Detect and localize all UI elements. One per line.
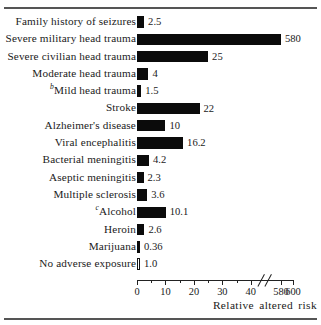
axis-tick [237, 280, 238, 283]
bar-value-label: 1.0 [144, 257, 157, 271]
axis-tick-label: 20 [189, 285, 199, 298]
category-label: No adverse exposure [39, 256, 136, 271]
bar-value-label: 580 [285, 32, 301, 46]
bar [137, 16, 144, 27]
bar [137, 207, 166, 218]
bar-row: Stroke22 [0, 100, 321, 117]
bar-value-label: 22 [204, 102, 215, 116]
bar-row: Alzheimer's disease10 [0, 118, 321, 135]
bar-value-label: 4.2 [153, 153, 166, 167]
bar [137, 224, 144, 235]
figure: Family history of seizures2.5Severe mili… [0, 0, 321, 325]
category-label: bMild head trauma [50, 83, 136, 98]
bar [137, 51, 208, 62]
category-label: Aseptic meningitis [49, 170, 136, 185]
category-label: Severe civilian head trauma [7, 49, 136, 64]
axis-tick [180, 280, 181, 283]
axis-break-icon [264, 274, 277, 287]
bar-value-label: 16.2 [187, 136, 206, 150]
bar-row: bMild head trauma1.5 [0, 83, 321, 100]
footnote-marker: c [95, 204, 99, 213]
bar [137, 68, 148, 79]
axis-tick-label: 40 [246, 285, 256, 298]
axis-tick [151, 280, 152, 283]
bar-row: cAlcohol10.1 [0, 204, 321, 221]
category-label: Family history of seizures [16, 14, 136, 29]
bar-value-label: 10.1 [170, 205, 189, 219]
bar-rows: Family history of seizures2.5Severe mili… [0, 14, 321, 273]
bar-row: Aseptic meningitis2.3 [0, 170, 321, 187]
bar-value-label: 25 [212, 50, 223, 64]
bar [137, 85, 141, 96]
category-label: Alzheimer's disease [44, 118, 136, 133]
category-label: Viral encephalitis [55, 135, 136, 150]
category-label: Marijuana [89, 239, 136, 254]
bar [137, 120, 165, 131]
category-label: Severe military head trauma [6, 31, 136, 46]
bar-value-label: 2.3 [148, 171, 161, 185]
bar-row: No adverse exposure1.0 [0, 256, 321, 273]
bar-value-label: 2.5 [148, 15, 161, 29]
bar [137, 241, 140, 252]
axis-tick [208, 280, 209, 283]
bar [137, 137, 183, 148]
category-label: Stroke [106, 100, 136, 115]
axis-tick-label: 0 [134, 285, 139, 298]
x-axis-title: Relative altered risk [0, 299, 317, 311]
category-label: Bacterial meningitis [43, 152, 136, 167]
bar-value-label: 10 [169, 119, 180, 133]
footnote-marker: b [50, 82, 54, 91]
bar-value-label: 1.5 [145, 84, 158, 98]
top-rule [4, 7, 317, 9]
bar-value-label: 3.6 [151, 188, 164, 202]
bar-row: Marijuana0.36 [0, 239, 321, 256]
category-label: Heroin [104, 222, 136, 237]
bar-row: Multiple sclerosis3.6 [0, 187, 321, 204]
bar [137, 189, 147, 200]
bar-row: Heroin2.6 [0, 222, 321, 239]
bar [137, 155, 149, 166]
bar-row: Viral encephalitis16.2 [0, 135, 321, 152]
bottom-rule [4, 318, 317, 320]
bar-row: Family history of seizures2.5 [0, 14, 321, 31]
bar-value-label: 0.36 [144, 240, 163, 254]
bar-row: Bacterial meningitis4.2 [0, 152, 321, 169]
axis-tick-label: 30 [217, 285, 227, 298]
category-label: cAlcohol [95, 204, 136, 219]
bar-row: Severe military head trauma580 [0, 31, 321, 48]
bar-value-label: 2.6 [148, 223, 161, 237]
bar [137, 34, 281, 45]
bar [137, 172, 144, 183]
bar-value-label: 4 [152, 67, 157, 81]
category-label: Multiple sclerosis [53, 187, 136, 202]
category-label: Moderate head trauma [32, 66, 136, 81]
bar-row: Severe civilian head trauma25 [0, 49, 321, 66]
axis-tick-label: 600 [285, 285, 301, 298]
bar-row: Moderate head trauma4 [0, 66, 321, 83]
bar [137, 258, 140, 269]
bar [137, 103, 200, 114]
axis-tick-label: 10 [160, 285, 170, 298]
